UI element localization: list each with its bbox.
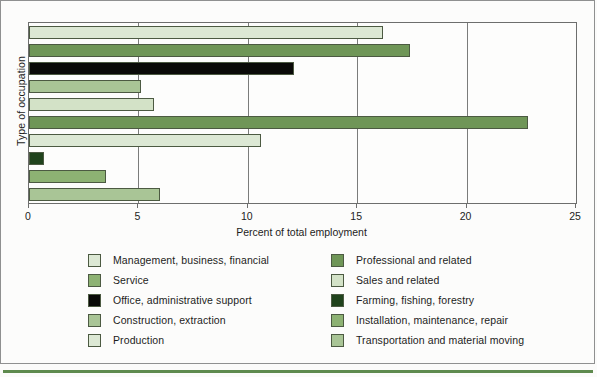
legend-label: Professional and related — [356, 254, 472, 266]
legend-item: Professional and related — [331, 250, 568, 270]
plot-canvas — [28, 22, 577, 204]
legend-label: Production — [113, 334, 164, 346]
legend-label: Transportation and material moving — [356, 334, 524, 346]
x-tick — [247, 203, 248, 208]
x-tick — [575, 203, 576, 208]
bar — [29, 116, 528, 129]
legend-item: Farming, fishing, forestry — [331, 290, 568, 310]
x-tick — [28, 203, 29, 208]
legend-item: Management, business, financial — [88, 250, 331, 270]
legend-label: Management, business, financial — [113, 254, 269, 266]
legend-swatch-icon — [88, 294, 101, 307]
bar — [29, 26, 383, 39]
bar — [29, 44, 410, 57]
chart-legend: Management, business, financialServiceOf… — [88, 250, 568, 350]
legend-swatch-icon — [88, 314, 101, 327]
legend-label: Sales and related — [356, 274, 439, 286]
bar — [29, 62, 294, 75]
bar — [29, 80, 141, 93]
x-tick — [356, 203, 357, 208]
x-axis-title: Percent of total employment — [28, 226, 575, 238]
legend-swatch-icon — [331, 334, 344, 347]
x-tick-label: 5 — [134, 210, 140, 222]
x-tick-label: 25 — [569, 210, 581, 222]
legend-item: Construction, extraction — [88, 310, 331, 330]
bar — [29, 170, 106, 183]
legend-label: Office, administrative support — [113, 294, 252, 306]
legend-label: Construction, extraction — [113, 314, 226, 326]
legend-item: Production — [88, 330, 331, 350]
legend-column-left: Management, business, financialServiceOf… — [88, 250, 331, 350]
x-tick — [466, 203, 467, 208]
bar — [29, 98, 154, 111]
legend-item: Transportation and material moving — [331, 330, 568, 350]
bar — [29, 188, 160, 201]
legend-swatch-icon — [331, 274, 344, 287]
legend-item: Sales and related — [331, 270, 568, 290]
bottom-accent-rule — [3, 370, 593, 373]
legend-swatch-icon — [88, 254, 101, 267]
legend-item: Installation, maintenance, repair — [331, 310, 568, 330]
legend-item: Office, administrative support — [88, 290, 331, 310]
legend-swatch-icon — [331, 294, 344, 307]
legend-swatch-icon — [331, 314, 344, 327]
y-axis-title: Type of occupation — [15, 36, 27, 166]
legend-column-right: Professional and relatedSales and relate… — [331, 250, 568, 350]
bar — [29, 134, 261, 147]
legend-label: Service — [113, 274, 149, 286]
x-tick — [137, 203, 138, 208]
legend-label: Farming, fishing, forestry — [356, 294, 474, 306]
legend-label: Installation, maintenance, repair — [356, 314, 508, 326]
legend-item: Service — [88, 270, 331, 290]
x-tick-label: 15 — [350, 210, 362, 222]
legend-swatch-icon — [331, 254, 344, 267]
x-tick-label: 0 — [25, 210, 31, 222]
chart-figure: Type of occupation 0510152025 Percent of… — [0, 0, 597, 377]
legend-swatch-icon — [88, 274, 101, 287]
x-tick-label: 10 — [241, 210, 253, 222]
bar — [29, 152, 44, 165]
x-tick-label: 20 — [460, 210, 472, 222]
bar-series — [29, 23, 576, 203]
plot-area: Type of occupation 0510152025 Percent of… — [0, 0, 597, 240]
legend-swatch-icon — [88, 334, 101, 347]
